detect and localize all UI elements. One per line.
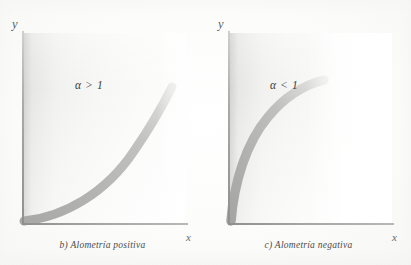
panel-allometria-positiva: y (0, 0, 205, 265)
allometry-figure: y (0, 0, 411, 265)
plot-area-positiva (22, 33, 186, 223)
caption-negativa: c) Alometría negativa (206, 240, 411, 250)
curve-convex-increasing (22, 33, 186, 223)
panel-allometria-negativa: y (206, 0, 411, 265)
alpha-annotation-positiva: α > 1 (75, 79, 103, 91)
plot-area-negativa (228, 33, 392, 223)
caption-positiva: b) Alometría positiva (0, 240, 239, 250)
curve-concave-increasing (228, 33, 392, 223)
x-axis-line-positiva (22, 223, 188, 225)
alpha-annotation-negativa: α < 1 (270, 79, 298, 91)
y-axis-line-negativa (228, 31, 230, 223)
y-axis-label: y (218, 17, 224, 32)
y-axis-label: y (12, 17, 18, 32)
x-axis-line-negativa (228, 223, 394, 225)
y-axis-line-positiva (22, 31, 24, 223)
